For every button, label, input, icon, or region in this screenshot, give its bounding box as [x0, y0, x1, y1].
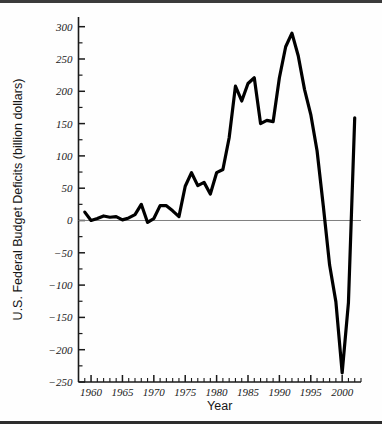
y-tick-label: −100 — [49, 279, 73, 291]
y-tick-label: 300 — [55, 21, 73, 33]
x-tick-label: 1960 — [80, 386, 103, 398]
y-tick-label: 250 — [56, 53, 73, 65]
y-axis: 300250200150100500−50−100−150−200−250 — [49, 17, 85, 388]
y-tick-label: 0 — [67, 214, 73, 226]
x-axis: 196019651970197519801985199019952000 — [79, 375, 362, 398]
data-series-budget-deficits — [85, 33, 355, 373]
x-tick-label: 1965 — [111, 386, 134, 398]
line-chart: 300250200150100500−50−100−150−200−250 19… — [0, 0, 382, 430]
figure-container: 300250200150100500−50−100−150−200−250 19… — [0, 0, 382, 430]
y-tick-label: −250 — [49, 376, 73, 388]
series-line-deficits — [85, 33, 355, 373]
y-axis-title: U.S. Federal Budget Deficits (billion do… — [11, 79, 25, 321]
x-tick-label: 1980 — [206, 386, 229, 398]
x-tick-label: 1990 — [268, 386, 291, 398]
x-tick-label: 1985 — [237, 386, 260, 398]
y-tick-label: 150 — [56, 118, 73, 130]
x-axis-title: Year — [207, 399, 232, 413]
y-tick-label: −50 — [54, 247, 73, 259]
x-tick-label: 1970 — [143, 386, 166, 398]
x-tick-label: 1995 — [300, 386, 323, 398]
x-tick-label: 1975 — [174, 386, 197, 398]
x-tick-label: 2000 — [331, 386, 354, 398]
y-tick-label: 50 — [62, 182, 74, 194]
axis-titles: U.S. Federal Budget Deficits (billion do… — [11, 79, 232, 413]
y-tick-label: 100 — [56, 150, 73, 162]
y-tick-label: −150 — [49, 311, 73, 323]
y-tick-label: 200 — [56, 85, 73, 97]
y-tick-label: −200 — [49, 344, 73, 356]
